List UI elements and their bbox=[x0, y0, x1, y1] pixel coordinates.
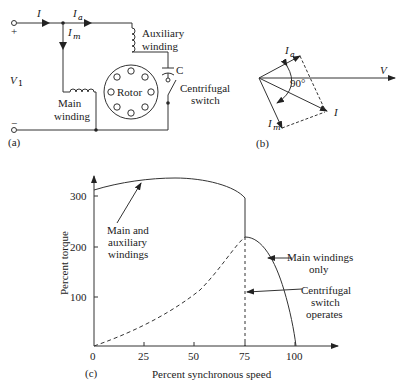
svg-text:100: 100 bbox=[70, 291, 87, 303]
switch-label: Centrifugal bbox=[180, 82, 230, 94]
plus-sign: + bbox=[11, 25, 17, 37]
svg-text:Main windings: Main windings bbox=[287, 251, 353, 263]
y-axis-label: Percent torque bbox=[58, 231, 70, 295]
current-arrow-icon bbox=[42, 19, 50, 27]
svg-text:a: a bbox=[78, 13, 83, 22]
centrifugal-switch bbox=[168, 80, 176, 95]
main-winding-label: Main bbox=[58, 97, 82, 109]
svg-text:300: 300 bbox=[70, 190, 87, 202]
svg-text:winding: winding bbox=[54, 110, 91, 122]
svg-text:m: m bbox=[73, 32, 81, 41]
svg-text:operates: operates bbox=[306, 308, 343, 320]
panel-a-tag: (a) bbox=[8, 136, 21, 149]
svg-text:100: 100 bbox=[286, 350, 303, 362]
svg-text:winding: winding bbox=[142, 40, 179, 52]
current-arrow-icon bbox=[59, 42, 67, 50]
svg-text:200: 200 bbox=[70, 241, 87, 253]
current-arrow-icon bbox=[84, 19, 92, 27]
minus-sign: − bbox=[11, 117, 17, 129]
panel-b-tag: (b) bbox=[256, 137, 269, 150]
aux-winding-coil bbox=[132, 28, 135, 52]
figure: I I a I m + − V 1 Auxiliary winding C Ma… bbox=[0, 0, 404, 391]
svg-text:25: 25 bbox=[138, 350, 150, 362]
svg-text:I: I bbox=[333, 106, 339, 118]
svg-text:V: V bbox=[380, 64, 388, 76]
circuit-labels: I I a I m + − V 1 Auxiliary winding C Ma… bbox=[8, 7, 230, 149]
capacitor-label: C bbox=[176, 64, 183, 76]
torque-speed-chart: 300 200 100 0 25 50 75 100 Percent synch… bbox=[58, 176, 353, 380]
svg-text:m: m bbox=[273, 123, 281, 132]
phasor-diagram bbox=[259, 56, 395, 128]
svg-text:Centrifugal: Centrifugal bbox=[301, 284, 351, 296]
rotor-label: Rotor bbox=[117, 86, 142, 98]
panel-c-tag: (c) bbox=[85, 367, 98, 380]
svg-text:Main and: Main and bbox=[107, 224, 149, 236]
svg-text:75: 75 bbox=[239, 350, 251, 362]
x-axis-label: Percent synchronous speed bbox=[152, 368, 272, 380]
main-winding-coil bbox=[70, 89, 94, 92]
svg-text:50: 50 bbox=[188, 350, 200, 362]
svg-text:auxiliary: auxiliary bbox=[108, 236, 148, 248]
label-v1: V bbox=[10, 74, 18, 86]
chart-labels: 300 200 100 0 25 50 75 100 Percent synch… bbox=[58, 190, 353, 380]
svg-text:windings: windings bbox=[108, 248, 148, 260]
label-i: I bbox=[36, 7, 42, 19]
aux-winding-label: Auxiliary bbox=[142, 27, 185, 39]
ia-phasor bbox=[259, 56, 300, 78]
svg-text:0: 0 bbox=[90, 350, 96, 362]
svg-text:a: a bbox=[290, 50, 295, 59]
phasor-labels: I a I m I V 90° (b) bbox=[256, 44, 388, 150]
svg-text:switch: switch bbox=[191, 94, 220, 106]
svg-text:1: 1 bbox=[18, 79, 23, 88]
angle-label: 90° bbox=[290, 77, 305, 89]
svg-text:only: only bbox=[309, 263, 329, 275]
svg-text:switch: switch bbox=[311, 296, 340, 308]
